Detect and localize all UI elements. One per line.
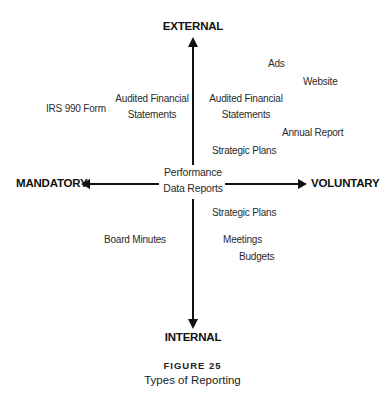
center-label-line2: Data Reports bbox=[163, 182, 222, 194]
item-text: Statements bbox=[209, 109, 282, 121]
figure-number: FIGURE 25 bbox=[163, 360, 221, 371]
axis-label-internal: INTERNAL bbox=[165, 331, 222, 343]
axis-label-voluntary: VOLUNTARY bbox=[311, 177, 379, 189]
item-text: Audited Financial bbox=[209, 93, 282, 105]
item-text: Audited Financial bbox=[115, 93, 188, 105]
arrow-down-icon bbox=[188, 319, 198, 329]
arrow-up-icon bbox=[188, 37, 198, 47]
item-audited-financial-external-voluntary: Audited Financial Statements bbox=[209, 93, 282, 121]
item-irs-990-form: IRS 990 Form bbox=[46, 103, 106, 115]
item-text: Statements bbox=[115, 109, 188, 121]
center-label: Performance Data Reports bbox=[163, 166, 222, 194]
figure-title: Types of Reporting bbox=[144, 374, 241, 386]
center-label-line1: Performance bbox=[163, 166, 222, 178]
item-strategic-plans-external: Strategic Plans bbox=[212, 145, 276, 157]
item-meetings: Meetings bbox=[223, 234, 262, 246]
item-annual-report: Annual Report bbox=[282, 127, 343, 139]
item-ads: Ads bbox=[268, 58, 285, 70]
item-website: Website bbox=[303, 76, 338, 88]
axis-label-mandatory: MANDATORY bbox=[16, 177, 87, 189]
arrow-right-icon bbox=[298, 179, 307, 189]
item-budgets: Budgets bbox=[239, 251, 274, 263]
item-strategic-plans-internal: Strategic Plans bbox=[212, 207, 276, 219]
item-board-minutes: Board Minutes bbox=[104, 234, 166, 246]
axis-label-external: EXTERNAL bbox=[163, 20, 223, 32]
item-audited-financial-external-mandatory: Audited Financial Statements bbox=[115, 93, 188, 121]
